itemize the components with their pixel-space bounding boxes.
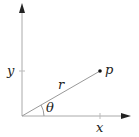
point-label: p xyxy=(105,62,114,77)
y-axis-arrow-icon xyxy=(19,3,25,13)
angle-label: θ xyxy=(46,100,54,115)
polar-coordinates-diagram: y x r θ p xyxy=(0,0,139,137)
x-axis-label: x xyxy=(96,120,104,135)
angle-arc xyxy=(41,105,44,116)
point-p xyxy=(98,69,102,73)
x-axis-arrow-icon xyxy=(121,113,131,119)
y-axis-label: y xyxy=(6,63,15,78)
radius-label: r xyxy=(58,77,65,92)
